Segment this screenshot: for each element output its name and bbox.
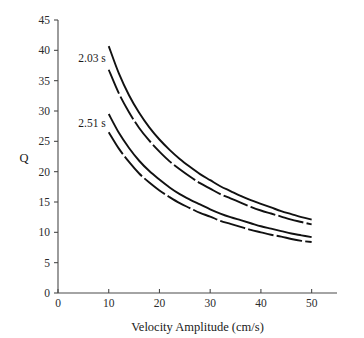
x-axis-tick-label: 20	[154, 297, 166, 309]
data-curve-2	[109, 114, 312, 237]
x-axis-tick-label: 50	[306, 297, 318, 309]
chart-plot-area: 051015202530354045 01020304050 2.03 s2.5…	[0, 0, 364, 338]
y-axis-tick-label: 20	[39, 166, 51, 178]
y-axis: 051015202530354045	[39, 14, 59, 299]
y-axis-tick-label: 15	[39, 196, 51, 208]
data-curve-1	[109, 70, 312, 225]
y-axis-tick-label: 5	[44, 257, 50, 269]
curve-annotations: 2.03 s2.51 s	[78, 52, 106, 129]
y-axis-tick-label: 40	[39, 44, 51, 56]
chart-figure: 051015202530354045 01020304050 2.03 s2.5…	[0, 0, 364, 338]
y-axis-tick-label: 0	[44, 287, 50, 299]
y-axis-tick-label: 30	[39, 105, 51, 117]
x-axis-tick-label: 10	[103, 297, 115, 309]
y-axis-tick-label: 35	[39, 75, 51, 87]
y-axis-tick-label: 45	[39, 14, 51, 26]
y-axis-tick-label: 10	[39, 226, 51, 238]
curve-label-1: 2.51 s	[78, 117, 106, 129]
data-curve-0	[109, 46, 312, 220]
data-series-group	[109, 46, 312, 242]
x-axis-title: Velocity Amplitude (cm/s)	[131, 320, 264, 334]
curve-label-0: 2.03 s	[78, 52, 106, 64]
data-curve-3	[109, 132, 312, 242]
x-axis-tick-label: 0	[55, 297, 61, 309]
y-axis-tick-label: 25	[39, 135, 51, 147]
x-axis: 01020304050	[55, 289, 337, 309]
x-axis-tick-label: 40	[255, 297, 267, 309]
y-axis-title: Q	[19, 151, 28, 165]
x-axis-tick-label: 30	[204, 297, 216, 309]
